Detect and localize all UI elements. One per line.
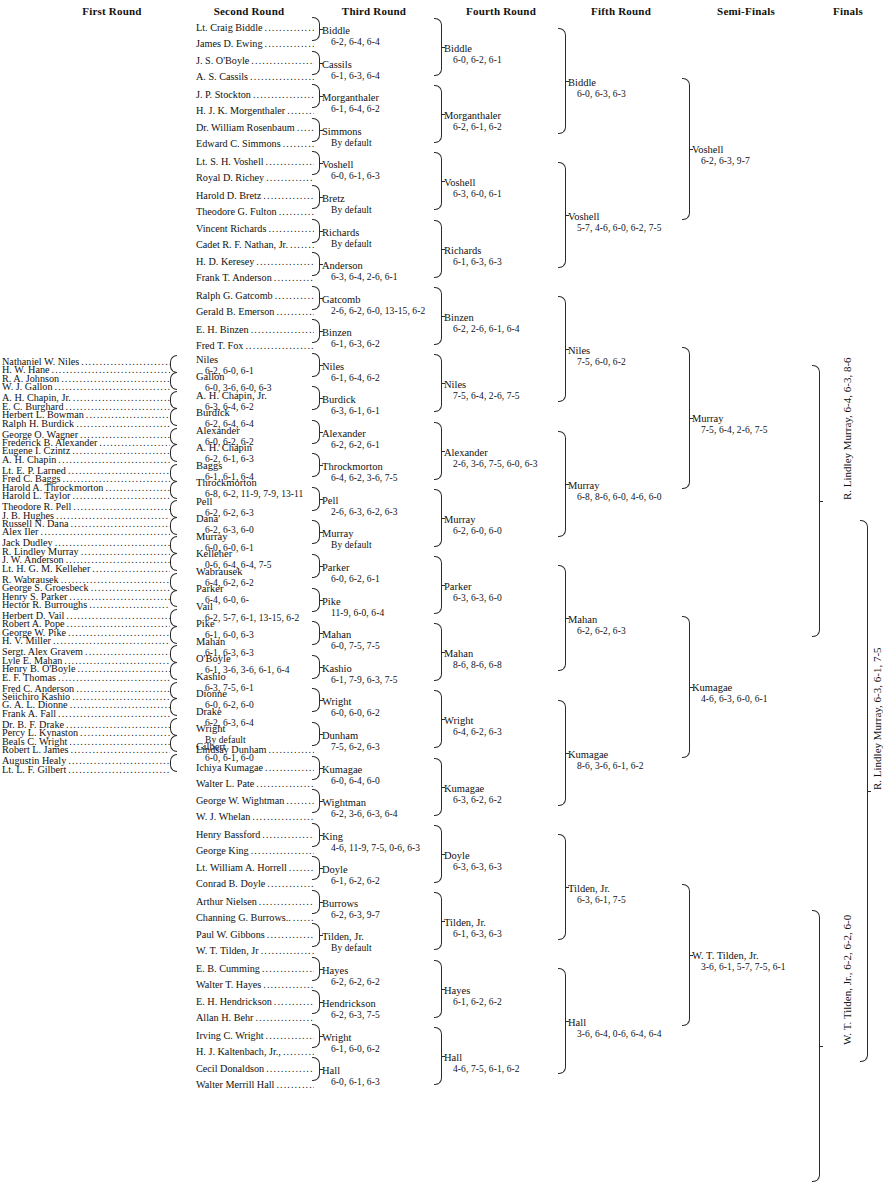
match-result: RichardsBy default (322, 228, 372, 249)
match-winner-name: Morganthaler (322, 93, 380, 104)
first-round-pair-brace (170, 754, 177, 772)
first-round-pair-brace (170, 735, 177, 753)
finals-result-2: W. T. Tilden, Jr., 6-2, 6-2, 6-0 (841, 915, 853, 1045)
match-score: 6-0, 6-2, 6-1 (322, 574, 380, 585)
match-result: W. T. Tilden, Jr.3-6, 6-1, 5-7, 7-5, 6-1 (692, 951, 786, 972)
second-round-entrant: Walter T. Hayes (196, 979, 314, 990)
match-winner-name: Kumagae (568, 750, 644, 761)
leader-dots (257, 896, 314, 907)
entrant-name: Frank A. Fall (2, 708, 56, 719)
second-round-pair-brace (312, 520, 320, 544)
first-round-pair-brace (170, 682, 177, 700)
third-round-pair-brace (434, 690, 442, 748)
entrant-name: E. F. Thomas (2, 672, 56, 683)
semi-final-pair-brace (812, 365, 820, 637)
second-round-pair-brace (312, 219, 320, 243)
match-score: 6-0, 6-1, 6-0 (196, 753, 254, 764)
leader-dots (69, 744, 171, 755)
leader-dots (70, 490, 170, 501)
match-result: King4-6, 11-9, 7-5, 0-6, 6-3 (322, 832, 420, 853)
match-score: 6-1, 6-4, 6-2 (322, 373, 380, 384)
third-round-pair-brace (434, 85, 442, 143)
match-score: By default (322, 205, 372, 216)
second-round-entrant: Lt. Craig Biddle (196, 22, 314, 33)
match-score: 6-0, 6-0, 6-2 (322, 708, 380, 719)
entrant-name: Channing G. Burrows.. (196, 912, 291, 923)
second-round-pair-brace (312, 990, 320, 1014)
entrant-name: Walter T. Hayes (196, 979, 261, 990)
match-score: 7-5, 6-2, 6-3 (322, 742, 380, 753)
match-result: Biddle6-0, 6-2, 6-1 (444, 44, 502, 65)
entrant-name: Lt. H. G. M. Kelleher (2, 563, 90, 574)
match-score: 4-6, 11-9, 7-5, 0-6, 6-3 (322, 843, 420, 854)
first-round-pair-brace (170, 481, 177, 499)
match-winner-name: Throckmorton (322, 462, 398, 473)
leader-dots (259, 945, 314, 956)
match-winner-name: Pike (196, 619, 254, 630)
second-round-pair-brace (312, 688, 320, 712)
second-round-entrant: E. H. Hendrickson (196, 996, 314, 1007)
entrant-name: Dr. William Rosenbaum (196, 122, 295, 133)
leader-dots (266, 223, 314, 234)
match-winner-name: Richards (322, 228, 372, 239)
match-score: 6-2, 2-6, 6-1, 6-4 (444, 324, 520, 335)
match-score: 6-4, 6-2, 6-3 (444, 727, 502, 738)
match-result: Gilbert6-0, 6-1, 6-0 (196, 742, 254, 763)
second-round-entrant: Ichiya Kumagae (196, 762, 314, 773)
entrant-name: Henry Bassford (196, 829, 260, 840)
second-round-entrant: Edward C. Simmons (196, 138, 314, 149)
match-winner-name: Niles (322, 362, 380, 373)
third-round-pair-brace (434, 354, 442, 412)
match-score: 6-3, 6-1, 6-1 (322, 406, 380, 417)
match-winner-name: A. H. Chapin, Jr. (196, 391, 267, 402)
leader-dots (90, 563, 170, 574)
entrant-name: Hector R. Burroughs (2, 599, 87, 610)
third-round-pair-brace (434, 623, 442, 681)
first-round-entrant: Robert L. James (2, 744, 170, 755)
match-winner-name: Voshell (322, 160, 380, 171)
match-score: 6-2, 6-0, 6-0 (444, 526, 502, 537)
leader-dots (260, 963, 314, 974)
match-winner-name: Tilden, Jr. (568, 884, 626, 895)
match-winner-name: Anderson (322, 261, 398, 272)
entrant-name: Arthur Nielsen (196, 896, 257, 907)
leader-dots (281, 1046, 314, 1057)
second-round-entrant: J. S. O'Boyle (196, 55, 314, 66)
second-round-pair-brace (312, 756, 320, 780)
leader-dots (249, 324, 314, 335)
match-winner-name: Alexander (322, 429, 380, 440)
match-winner-name: Pell (196, 497, 254, 508)
match-score: 2-6, 6-2, 6-0, 13-15, 6-2 (322, 306, 425, 317)
first-round-entrant: E. F. Thomas (2, 672, 170, 683)
match-winner-name: Pell (322, 496, 398, 507)
match-winner-name: Hall (444, 1053, 520, 1064)
match-winner-name: Murray (196, 532, 254, 543)
second-round-pair-brace (312, 856, 320, 880)
second-round-entrant: W. T. Tilden, Jr (196, 945, 314, 956)
entrant-name: Cadet R. F. Nathan, Jr. (196, 239, 288, 250)
entrant-name: Walter L. Pate (196, 778, 254, 789)
second-round-entrant: Vincent Richards (196, 223, 314, 234)
entrant-name: Irving C. Wright (196, 1030, 264, 1041)
match-score: 6-0, 6-1, 6-3 (322, 1077, 380, 1088)
entrant-name: Gerald B. Emerson (196, 306, 274, 317)
second-round-pair-brace (312, 789, 320, 813)
round-header-3: Third Round (342, 5, 406, 17)
match-score: 6-0, 7-5, 7-5 (322, 641, 380, 652)
match-result: Mahan8-6, 8-6, 6-8 (444, 649, 502, 670)
match-score: 6-2, 3-6, 6-3, 6-4 (322, 809, 398, 820)
entrant-name: J. S. O'Boyle (196, 55, 249, 66)
first-round-entrant: Lt. L. F. Gilbert (2, 764, 170, 775)
entrant-name: Alex Iler (2, 526, 39, 537)
match-winner-name: A. H. Chapin (196, 443, 254, 454)
entrant-name: Ralph H. Burdick (2, 418, 74, 429)
entrant-name: Lt. L. F. Gilbert (2, 764, 66, 775)
match-result: Voshell6-3, 6-0, 6-1 (444, 178, 502, 199)
fourth-round-pair-brace (558, 565, 566, 671)
fourth-round-pair-brace (558, 700, 566, 806)
match-result: Kumagae8-6, 3-6, 6-1, 6-2 (568, 750, 644, 771)
second-round-entrant: Channing G. Burrows.. (196, 912, 314, 923)
match-result: Hayes6-2, 6-2, 6-2 (322, 966, 380, 987)
entrant-name: Vincent Richards (196, 223, 266, 234)
